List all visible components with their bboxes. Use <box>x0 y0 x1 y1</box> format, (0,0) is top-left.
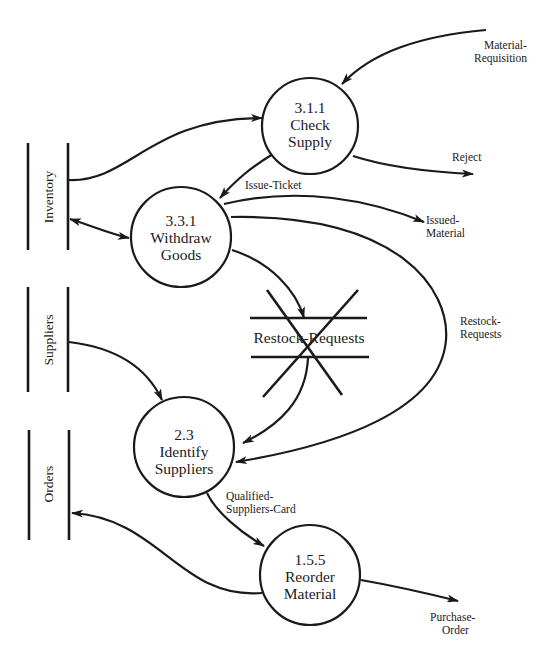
store-label: Suppliers <box>41 314 56 365</box>
process-number: 1.5.5 <box>295 551 326 568</box>
store-suppliers: Suppliers <box>28 287 68 392</box>
deleted-store-restock-requests: Restock-Requests <box>250 290 369 397</box>
flow-purchase-order <box>361 580 458 601</box>
label-qualified-suppliers-card-1: Qualified- <box>226 490 273 502</box>
process-withdraw-goods: 3.3.1 Withdraw Goods <box>131 187 231 287</box>
store-label: Inventory <box>41 171 56 224</box>
flow-suppliers-to-identify <box>69 342 162 400</box>
process-number: 3.1.1 <box>295 99 326 116</box>
flow-restock-to-identify <box>243 358 308 443</box>
label-restock-requests-1: Restock- <box>460 315 501 327</box>
process-identify-suppliers: 2.3 Identify Suppliers <box>134 397 234 497</box>
label-issued-material-2: Material <box>426 227 465 239</box>
flow-material-requisition <box>342 30 486 84</box>
label-restock-requests-2: Requests <box>460 328 502 341</box>
store-inventory: Inventory <box>28 143 68 250</box>
flow-inventory-withdraw <box>70 219 129 238</box>
process-number: 2.3 <box>174 426 194 443</box>
process-name-line1: Withdraw <box>150 229 212 246</box>
flow-issue-ticket <box>220 154 273 198</box>
label-purchase-order-2: Order <box>442 624 469 636</box>
process-number: 3.3.1 <box>166 212 197 229</box>
label-material-requisition-2: Requisition <box>474 52 527 65</box>
process-name-line2: Material <box>284 585 337 602</box>
process-name-line1: Identify <box>159 443 208 460</box>
process-name-line2: Goods <box>161 246 201 263</box>
data-flow-diagram: Inventory Suppliers Orders Restock-Reque… <box>0 0 557 653</box>
flow-inventory-to-check-supply <box>69 118 262 180</box>
process-check-supply: 3.1.1 Check Supply <box>262 78 358 174</box>
label-issued-material-1: Issued- <box>426 214 459 226</box>
label-qualified-suppliers-card-2: Suppliers-Card <box>226 503 296 516</box>
process-name-line1: Check <box>290 116 330 133</box>
label-material-requisition-1: Material- <box>484 39 527 51</box>
process-name-line2: Suppliers <box>155 460 214 477</box>
store-orders: Orders <box>29 430 69 540</box>
flow-withdraw-to-restock <box>232 250 304 318</box>
label-purchase-order-1: Purchase- <box>430 611 476 623</box>
process-reorder-material: 1.5.5 Reorder Material <box>260 525 360 625</box>
cropped-caption <box>60 646 557 653</box>
store-label: Orders <box>41 466 56 503</box>
label-issue-ticket: Issue-Ticket <box>245 179 302 191</box>
label-reject: Reject <box>452 151 482 164</box>
process-name-line2: Supply <box>288 133 332 150</box>
process-name-line1: Reorder <box>285 568 336 585</box>
